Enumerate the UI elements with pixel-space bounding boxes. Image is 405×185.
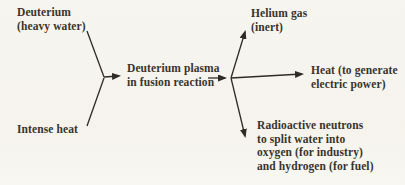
node-intense-heat-label: Intense heat [17,123,78,137]
node-deuterium-line1: Deuterium [17,6,86,20]
node-deuterium-plasma-line2: in fusion reaction [127,76,220,90]
node-deuterium-plasma-line1: Deuterium plasma [127,62,220,76]
node-heat-output-line1: Heat (to generate [311,64,398,78]
line-deuterium-to-junction [87,31,104,77]
node-radioactive-neutrons-line2: to split water into [257,133,374,147]
node-heat-output-line2: electric power) [311,78,398,92]
node-helium-gas: Helium gas (inert) [251,7,307,34]
node-heat-output: Heat (to generate electric power) [311,64,398,91]
node-intense-heat: Intense heat [17,123,78,137]
node-helium-gas-line2: (inert) [251,21,307,35]
arrow-hub-to-neutrons [231,78,245,136]
node-deuterium-line2: (heavy water) [17,20,86,34]
line-intense-heat-to-junction [87,78,104,126]
arrow-hub-to-helium [231,32,245,78]
node-radioactive-neutrons-line1: Radioactive neutrons [257,119,374,133]
arrow-hub-to-heat [231,74,302,78]
node-radioactive-neutrons-line3: oxygen (for industry) [257,146,374,160]
fusion-reaction-diagram: Deuterium (heavy water) Intense heat Deu… [0,0,405,185]
node-deuterium: Deuterium (heavy water) [17,6,86,33]
arrow-junction-to-plasma [104,76,119,77]
node-deuterium-plasma: Deuterium plasma in fusion reaction [127,62,220,89]
node-helium-gas-line1: Helium gas [251,7,307,21]
node-radioactive-neutrons: Radioactive neutrons to split water into… [257,119,374,173]
node-radioactive-neutrons-line4: and hydrogen (for fuel) [257,160,374,174]
